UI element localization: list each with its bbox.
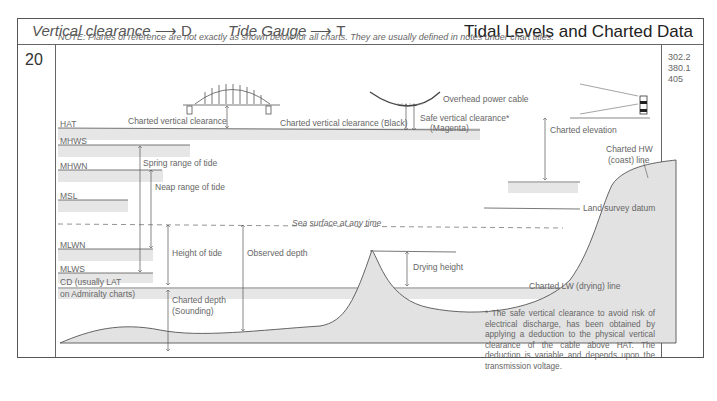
safe-clearance-label: Safe vertical clearance* xyxy=(420,113,509,123)
charted-elevation-label: Charted elevation xyxy=(550,125,617,135)
height-of-tide-label: Height of tide xyxy=(172,248,222,258)
sounding-label: (Sounding) xyxy=(172,306,214,316)
level-cd: CD (usually LAT xyxy=(60,277,121,287)
land-survey-datum-label: Land survey datum xyxy=(583,203,655,213)
overhead-cable-label: Overhead power cable xyxy=(443,94,529,104)
level-mhwn: MHWN xyxy=(60,161,87,171)
neap-range-label: Neap range of tide xyxy=(155,182,225,192)
level-mlws: MLWS xyxy=(60,264,85,274)
bridge-clearance-label: Charted vertical clearance xyxy=(128,116,227,126)
level-hat: HAT xyxy=(60,119,76,129)
bridge-icon xyxy=(183,84,280,114)
cable-clearance-label: Charted vertical clearance (Black) xyxy=(280,118,408,128)
sea-surface-label: Sea surface at any time xyxy=(292,218,381,228)
spring-range-label: Spring range of tide xyxy=(143,158,217,168)
charted-hw-label: Charted HW xyxy=(606,144,653,154)
safe-clearance-magenta: (Magenta) xyxy=(430,123,469,133)
level-msl: MSL xyxy=(60,191,77,201)
level-mlwn: MLWN xyxy=(60,240,85,250)
charted-depth-label: Charted depth xyxy=(172,295,226,305)
level-cd-note: on Admiralty charts) xyxy=(60,289,135,299)
drying-height-label: Drying height xyxy=(413,262,463,272)
charted-hw-line-label: (coast) line xyxy=(608,155,650,165)
charted-lw-label: Charted LW (drying) line xyxy=(529,281,621,291)
observed-depth-label: Observed depth xyxy=(247,248,307,258)
footnote: * The safe vertical clearance to avoid r… xyxy=(485,309,655,372)
planes-note: NOTE: Planes of reference are not exactl… xyxy=(58,32,554,42)
level-mhws: MHWS xyxy=(60,136,87,146)
